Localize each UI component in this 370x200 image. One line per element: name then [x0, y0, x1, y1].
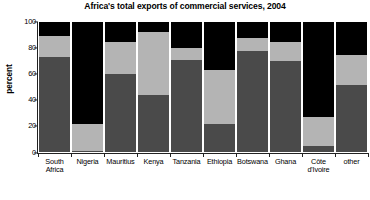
bar-column[interactable]	[303, 22, 333, 153]
bar-segment-segment-top[interactable]	[270, 22, 300, 42]
bar-segment-segment-middle[interactable]	[138, 32, 168, 95]
y-tick-label: 40	[2, 97, 36, 104]
y-tick-label: 60	[2, 70, 36, 77]
y-tick-label: 80	[2, 44, 36, 51]
bar-column[interactable]	[336, 22, 366, 153]
chart-title: Africa's total exports of commercial ser…	[0, 1, 370, 11]
bar-segment-segment-bottom[interactable]	[336, 85, 366, 153]
x-tick-mark	[71, 153, 72, 157]
x-tick-mark	[335, 153, 336, 157]
x-tick-label: other	[324, 158, 370, 166]
plot-area	[38, 22, 368, 153]
chart-figure: Africa's total exports of commercial ser…	[0, 0, 370, 200]
x-tick-mark	[104, 153, 105, 157]
x-tick-mark	[38, 153, 39, 157]
bar-column[interactable]	[171, 22, 201, 153]
bar-segment-segment-middle[interactable]	[105, 42, 135, 75]
bar-segment-segment-bottom[interactable]	[270, 61, 300, 152]
x-tick-mark	[203, 153, 204, 157]
bar-segment-segment-bottom[interactable]	[171, 60, 201, 153]
bar-column[interactable]	[270, 22, 300, 153]
bar-column[interactable]	[138, 22, 168, 153]
x-tick-mark	[269, 153, 270, 157]
bar-column[interactable]	[105, 22, 135, 153]
bar-segment-segment-middle[interactable]	[270, 42, 300, 62]
bar-column[interactable]	[72, 22, 102, 153]
y-tick-label: 20	[2, 123, 36, 130]
bar-segment-segment-bottom[interactable]	[39, 57, 69, 152]
bar-segment-segment-middle[interactable]	[336, 55, 366, 85]
bar-segment-segment-middle[interactable]	[303, 117, 333, 146]
bar-segment-segment-top[interactable]	[204, 22, 234, 70]
bar-segment-segment-bottom[interactable]	[237, 51, 267, 153]
x-tick-label-line: Africa	[27, 166, 81, 174]
bar-segment-segment-bottom[interactable]	[138, 95, 168, 152]
bar-column[interactable]	[237, 22, 267, 153]
x-axis-tick-labels: SouthAfricaNigeriaMauritiusKenyaTanzania…	[38, 158, 368, 192]
x-tick-mark	[137, 153, 138, 157]
x-tick-label-line: other	[324, 158, 370, 166]
bar-segment-segment-top[interactable]	[336, 22, 366, 55]
x-tick-mark	[302, 153, 303, 157]
bar-segment-segment-middle[interactable]	[171, 48, 201, 60]
bar-segment-segment-top[interactable]	[237, 22, 267, 38]
bar-segment-segment-top[interactable]	[105, 22, 135, 42]
bar-segment-segment-middle[interactable]	[72, 124, 102, 151]
bar-column[interactable]	[204, 22, 234, 153]
bar-segment-segment-top[interactable]	[72, 22, 102, 124]
x-tick-mark	[368, 153, 369, 157]
bar-segment-segment-top[interactable]	[138, 22, 168, 32]
bar-segment-segment-bottom[interactable]	[105, 74, 135, 152]
bar-column[interactable]	[39, 22, 69, 153]
bar-segment-segment-bottom[interactable]	[204, 124, 234, 153]
x-tick-mark	[170, 153, 171, 157]
y-tick-label: 0	[2, 149, 36, 156]
bar-segment-segment-top[interactable]	[39, 22, 69, 36]
y-tick-label: 100	[2, 18, 36, 25]
bar-segment-segment-middle[interactable]	[39, 36, 69, 57]
x-tick-label-line: d'Ivoire	[291, 166, 345, 174]
bar-segment-segment-middle[interactable]	[204, 70, 234, 124]
bar-segment-segment-middle[interactable]	[237, 38, 267, 51]
bar-segment-segment-top[interactable]	[171, 22, 201, 48]
bar-segment-segment-bottom[interactable]	[303, 146, 333, 153]
bar-segment-segment-top[interactable]	[303, 22, 333, 117]
